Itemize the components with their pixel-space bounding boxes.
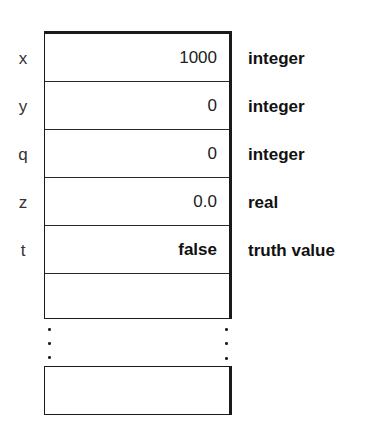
memory-cell-t: false (45, 226, 229, 274)
variable-name-t: t (10, 227, 36, 275)
variable-name-q: q (10, 131, 36, 179)
dot (225, 328, 228, 331)
cell-value: 0.0 (193, 178, 217, 226)
type-label-y: integer (248, 83, 305, 131)
dot (48, 328, 51, 331)
memory-cell-y: 0 (45, 82, 229, 130)
type-label-t: truth value (248, 227, 335, 275)
memory-block: 1000 0 0 0.0 false (44, 31, 232, 319)
cell-value: false (178, 226, 217, 274)
cell-value: 0 (208, 130, 217, 178)
dot (48, 342, 51, 345)
memory-cell-x: 1000 (45, 34, 229, 82)
cell-value: 0 (208, 82, 217, 130)
memory-cell-z: 0.0 (45, 178, 229, 226)
memory-cell-q: 0 (45, 130, 229, 178)
variable-name-z: z (10, 179, 36, 227)
type-label-q: integer (248, 131, 305, 179)
memory-cell-empty (45, 274, 229, 322)
dot (225, 342, 228, 345)
cell-value: 1000 (179, 34, 217, 82)
memory-cell-last (44, 366, 232, 415)
memory-cells-diagram: x y q z t 1000 0 0 0.0 false integer int… (0, 0, 370, 436)
variable-name-x: x (10, 35, 36, 83)
variable-name-y: y (10, 83, 36, 131)
type-label-x: integer (248, 35, 305, 83)
dot (48, 356, 51, 359)
type-label-z: real (248, 179, 278, 227)
dot (225, 357, 228, 360)
